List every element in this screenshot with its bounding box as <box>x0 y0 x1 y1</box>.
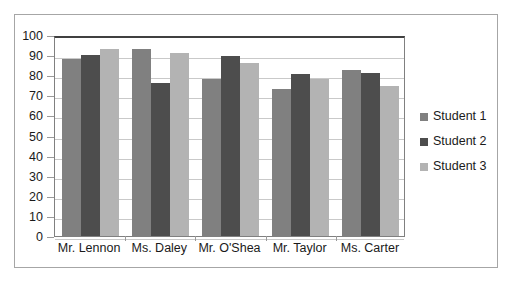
bar <box>291 74 310 236</box>
bar-group <box>266 38 336 236</box>
y-tick-label: 90 <box>29 50 43 63</box>
bar <box>81 55 100 236</box>
bar <box>361 73 380 236</box>
y-tick-mark <box>47 36 54 37</box>
bar-group <box>125 38 195 236</box>
legend-label: Student 2 <box>433 135 487 148</box>
bar <box>221 56 240 236</box>
y-tick-mark <box>47 177 54 178</box>
x-tick-label: Mr. O'Shea <box>198 242 260 255</box>
chart-legend: Student 1Student 2Student 3 <box>420 104 487 179</box>
y-tick-label: 60 <box>29 110 43 123</box>
y-tick-label: 30 <box>29 170 43 183</box>
bar <box>202 79 221 236</box>
y-tick-mark <box>47 76 54 77</box>
y-tick-label: 70 <box>29 90 43 103</box>
bar <box>380 86 399 236</box>
y-tick-mark <box>47 197 54 198</box>
legend-item[interactable]: Student 1 <box>420 104 487 129</box>
legend-item[interactable]: Student 3 <box>420 154 487 179</box>
bar <box>310 79 329 236</box>
y-tick-label: 0 <box>36 231 43 244</box>
y-tick-label: 50 <box>29 130 43 143</box>
y-tick-mark <box>47 96 54 97</box>
bar-group <box>195 38 265 236</box>
y-tick-mark <box>47 237 54 238</box>
category-tick <box>266 236 267 241</box>
bar <box>132 49 151 236</box>
bar <box>342 70 361 236</box>
bar <box>170 53 189 236</box>
y-tick-label: 100 <box>22 30 43 43</box>
bar-group <box>336 38 406 236</box>
bar <box>240 63 259 236</box>
legend-item[interactable]: Student 2 <box>420 129 487 154</box>
legend-swatch-icon <box>420 138 428 146</box>
chart-frame: 1009080706050403020100 Mr. LennonMs. Dal… <box>14 14 498 268</box>
y-tick-label: 10 <box>29 211 43 224</box>
x-tick-label: Ms. Daley <box>132 242 188 255</box>
legend-swatch-icon <box>420 163 428 171</box>
x-tick-label: Ms. Carter <box>341 242 399 255</box>
legend-label: Student 1 <box>433 110 487 123</box>
y-tick-mark <box>47 116 54 117</box>
x-axis-labels: Mr. LennonMs. DaleyMr. O'SheaMr. TaylorM… <box>54 242 405 262</box>
bar <box>62 59 81 236</box>
x-tick-label: Mr. Lennon <box>58 242 121 255</box>
x-tick-label: Mr. Taylor <box>273 242 327 255</box>
y-axis: 1009080706050403020100 <box>15 36 54 237</box>
plot-area <box>54 36 405 237</box>
y-tick-label: 80 <box>29 70 43 83</box>
y-tick-mark <box>47 56 54 57</box>
legend-swatch-icon <box>420 113 428 121</box>
legend-label: Student 3 <box>433 160 487 173</box>
bar-group <box>55 38 125 236</box>
bar <box>272 89 291 236</box>
y-tick-mark <box>47 217 54 218</box>
y-tick-label: 40 <box>29 150 43 163</box>
category-tick <box>336 236 337 241</box>
category-tick <box>195 236 196 241</box>
gridline <box>55 239 404 240</box>
bar <box>151 83 170 236</box>
category-tick <box>125 236 126 241</box>
y-tick-mark <box>47 137 54 138</box>
y-tick-label: 20 <box>29 191 43 204</box>
bar <box>100 49 119 236</box>
y-tick-mark <box>47 157 54 158</box>
